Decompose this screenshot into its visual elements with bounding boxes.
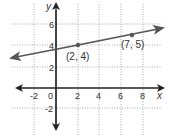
x-tick-label: 4 [96, 91, 101, 101]
line-graph: y x -2 0 2 4 6 8 6 4 2 -2 (2, 4) (7, 5) [0, 0, 177, 140]
x-tick-labels: -2 0 2 4 6 8 [30, 91, 145, 101]
grid [12, 4, 162, 136]
point-7-5 [130, 33, 134, 37]
point-label-2-4: (2, 4) [66, 51, 89, 62]
axes [17, 4, 163, 129]
y-tick-label: 2 [49, 63, 54, 73]
x-tick-label: 2 [75, 91, 80, 101]
point-2-4 [76, 43, 80, 47]
x-tick-label: 8 [140, 91, 145, 101]
y-tick-label: -2 [45, 104, 53, 114]
y-axis-label: y [45, 1, 52, 12]
y-tick-label: 6 [49, 20, 54, 30]
x-tick-label: -2 [30, 91, 38, 101]
x-tick-label: 6 [118, 91, 123, 101]
x-axis-label: x [156, 90, 163, 101]
point-label-7-5: (7, 5) [121, 39, 144, 50]
x-tick-label: 0 [48, 91, 53, 101]
